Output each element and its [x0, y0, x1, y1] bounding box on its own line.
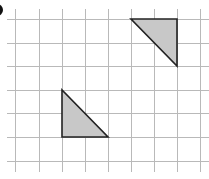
- grid-lines: [7, 9, 209, 172]
- grid-diagram: [0, 0, 209, 179]
- triangles: [62, 19, 177, 137]
